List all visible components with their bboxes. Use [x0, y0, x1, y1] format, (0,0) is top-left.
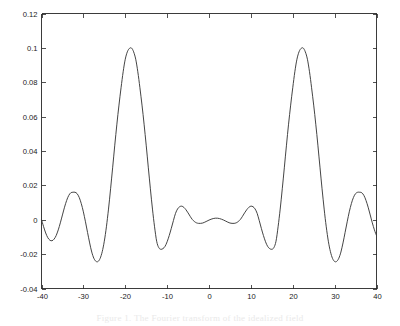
x-tick-label: -30 — [78, 292, 89, 301]
y-tick-label: 0.02 — [23, 181, 38, 190]
x-tick-label: -20 — [120, 292, 131, 301]
figure-container: -0.04-0.0200.020.040.060.080.10.12 -40-3… — [0, 0, 400, 326]
y-tick-label: 0.12 — [23, 10, 38, 19]
y-tick-label: 0 — [33, 216, 37, 225]
y-tick-label: -0.04 — [20, 285, 37, 294]
x-tick-label: 0 — [207, 292, 211, 301]
y-tick-label: 0.1 — [27, 44, 38, 53]
x-tick-label: -40 — [37, 292, 48, 301]
x-tick-label: 30 — [331, 292, 339, 301]
y-tick-label: -0.02 — [20, 250, 37, 259]
x-tick-label: 20 — [289, 292, 297, 301]
figure-caption: Figure 1. The Fourier transform of the i… — [0, 310, 400, 326]
x-tick-label: -10 — [162, 292, 173, 301]
canvas-background — [0, 0, 400, 326]
y-tick-label: 0.08 — [23, 78, 38, 87]
x-tick-label: 10 — [247, 292, 255, 301]
y-tick-label: 0.04 — [23, 147, 38, 156]
y-tick-label: 0.06 — [23, 113, 38, 122]
plot-canvas: -0.04-0.0200.020.040.060.080.10.12 -40-3… — [0, 0, 400, 326]
x-tick-label: 40 — [373, 292, 381, 301]
